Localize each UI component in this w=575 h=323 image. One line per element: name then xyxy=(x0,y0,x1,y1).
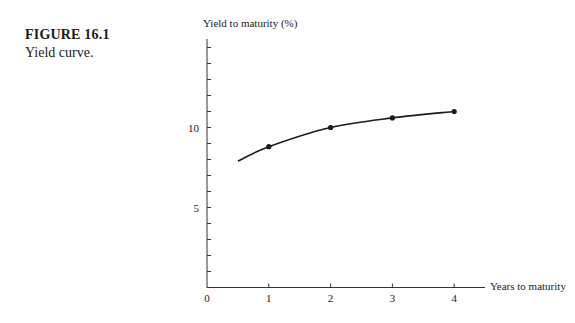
data-point-markers xyxy=(266,109,457,149)
x-tick-label: 4 xyxy=(451,292,457,304)
y-axis-ticks xyxy=(207,48,211,272)
y-tick-labels: 510 xyxy=(188,122,200,214)
x-axis-ticks xyxy=(269,284,454,288)
x-tick-labels: 01234 xyxy=(204,292,457,304)
data-point xyxy=(452,109,457,114)
y-axis-label: Yield to maturity (%) xyxy=(203,17,298,30)
yield-curve-chart: Yield to maturity (%) Years to maturity … xyxy=(0,0,575,323)
data-point xyxy=(390,115,395,120)
x-tick-label: 2 xyxy=(328,292,334,304)
data-point xyxy=(266,144,271,149)
x-tick-label: 0 xyxy=(204,292,210,304)
data-point xyxy=(328,125,333,130)
y-tick-label: 10 xyxy=(188,122,200,134)
y-tick-label: 5 xyxy=(194,202,200,214)
x-tick-label: 1 xyxy=(266,292,272,304)
x-axis-label: Years to maturity xyxy=(490,280,566,292)
x-tick-label: 3 xyxy=(390,292,396,304)
yield-curve-line xyxy=(238,112,454,162)
